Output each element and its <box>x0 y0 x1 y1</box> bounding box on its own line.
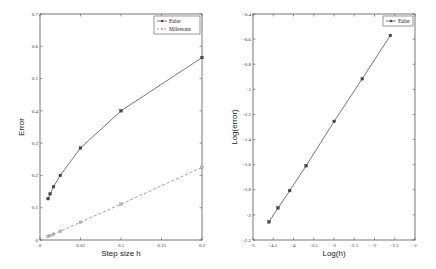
y-tick-label: -2.2 <box>243 238 251 243</box>
y-axis-label: Error <box>17 118 26 136</box>
y-tick-label: -1.8 <box>243 187 251 192</box>
x-axis-label: Step size h <box>101 249 141 258</box>
data-point-marker <box>79 221 82 224</box>
y-tick-label: -0.6 <box>243 37 251 42</box>
x-tick-label: -3 <box>332 243 337 248</box>
x-tick-label: -2.5 <box>350 243 358 248</box>
y-tick-label: -2 <box>247 213 252 218</box>
chart-canvas: 00.050.10.150.200.10.20.30.40.50.60.7Ste… <box>0 0 436 269</box>
data-point-marker <box>47 197 50 200</box>
y-tick-label: -0.4 <box>243 12 251 17</box>
data-point-marker <box>361 77 364 80</box>
y-tick-label: 0.7 <box>32 12 39 17</box>
y-tick-label: -1 <box>247 87 252 92</box>
data-point-marker <box>79 147 82 150</box>
data-point-marker <box>52 185 55 188</box>
y-tick-label: -1.6 <box>243 162 251 167</box>
x-tick-label: -1.5 <box>391 243 399 248</box>
legend-entry-euler: Euler <box>398 18 410 24</box>
y-tick-label: 0.5 <box>32 76 39 81</box>
data-point-marker <box>49 193 52 196</box>
x-tick-label: -4.5 <box>269 243 277 248</box>
y-axis-label: Log(error) <box>230 109 239 145</box>
y-tick-label: 0.6 <box>32 44 39 49</box>
x-tick-label: 0.2 <box>199 243 206 248</box>
y-tick-label: 0 <box>36 238 39 243</box>
x-axis-label: Log(h) <box>322 249 345 258</box>
data-point-marker <box>277 207 280 210</box>
data-point-marker <box>52 233 55 236</box>
data-point-marker <box>201 166 204 169</box>
y-tick-label: 0.3 <box>32 141 39 146</box>
data-point-marker <box>49 234 52 237</box>
x-tick-label: -1 <box>413 243 418 248</box>
x-tick-label: 0.15 <box>157 243 166 248</box>
left-chart-error-vs-step: 00.050.10.150.200.10.20.30.40.50.60.7Ste… <box>17 12 206 258</box>
data-point-marker <box>201 56 204 59</box>
y-tick-label: -1.2 <box>243 112 251 117</box>
data-point-marker <box>120 203 123 206</box>
x-tick-label: 0 <box>39 243 42 248</box>
y-tick-label: 0.1 <box>32 205 39 210</box>
plot-area <box>40 14 202 240</box>
data-point-marker <box>59 230 62 233</box>
legend: EulerMilestone <box>154 16 200 34</box>
x-tick-label: 0.05 <box>76 243 85 248</box>
x-tick-label: 0.1 <box>118 243 125 248</box>
x-tick-label: -2 <box>372 243 377 248</box>
right-chart-log-error-vs-log-h: -5-4.5-4-3.5-3-2.5-2-1.5-1-2.2-2-1.8-1.6… <box>230 12 418 258</box>
data-point-marker <box>333 120 336 123</box>
data-point-marker <box>120 110 123 113</box>
legend-entry-euler: Euler <box>169 18 181 24</box>
data-point-marker <box>288 189 291 192</box>
x-tick-label: -3.5 <box>310 243 318 248</box>
legend-entry-milestone: Milestone <box>169 26 192 32</box>
y-tick-label: 0.2 <box>32 173 39 178</box>
data-point-marker <box>59 174 62 177</box>
data-point-marker <box>389 34 392 37</box>
data-point-marker <box>305 164 308 167</box>
y-tick-label: -0.8 <box>243 62 251 67</box>
y-tick-label: 0.4 <box>32 109 39 114</box>
y-tick-label: -1.4 <box>243 137 251 142</box>
legend: Euler <box>383 16 413 26</box>
x-tick-label: -4 <box>291 243 296 248</box>
plot-area <box>253 14 415 240</box>
x-tick-label: -5 <box>251 243 256 248</box>
data-point-marker <box>268 221 271 224</box>
